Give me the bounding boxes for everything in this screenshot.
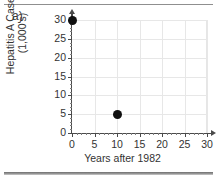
x-axis-minor-tick bbox=[99, 133, 100, 135]
x-axis-minor-tick bbox=[176, 133, 177, 135]
x-axis-minor-tick bbox=[126, 133, 127, 135]
y-axis-minor-tick bbox=[70, 118, 72, 119]
y-axis-tick bbox=[68, 95, 72, 96]
x-axis-tick-label: 15 bbox=[129, 138, 151, 150]
y-axis-minor-tick bbox=[70, 129, 72, 130]
y-axis-minor-tick bbox=[70, 54, 72, 55]
x-axis-minor-tick bbox=[131, 133, 132, 135]
gridline-horizontal bbox=[72, 39, 207, 40]
gridline-horizontal bbox=[72, 114, 207, 115]
data-point bbox=[113, 110, 122, 119]
x-axis-minor-tick bbox=[194, 133, 195, 135]
y-axis-tick-label: 30 bbox=[42, 14, 66, 25]
y-axis-title-line2: (1,000's) bbox=[17, 13, 29, 54]
y-axis-minor-tick bbox=[70, 69, 72, 70]
y-axis-minor-tick bbox=[70, 46, 72, 47]
y-axis-minor-tick bbox=[70, 110, 72, 111]
y-axis-minor-tick bbox=[70, 73, 72, 74]
top-divider bbox=[4, 4, 213, 5]
x-axis-tick-label: 30 bbox=[196, 138, 217, 150]
x-axis-minor-tick bbox=[189, 133, 190, 135]
y-axis-minor-tick bbox=[70, 31, 72, 32]
x-axis-minor-tick bbox=[113, 133, 114, 135]
x-axis-minor-tick bbox=[171, 133, 172, 135]
y-axis-minor-tick bbox=[70, 28, 72, 29]
y-axis-tick bbox=[68, 39, 72, 40]
x-axis-tick-label: 5 bbox=[84, 138, 106, 150]
y-axis-minor-tick bbox=[70, 80, 72, 81]
bottom-divider bbox=[4, 172, 213, 175]
x-axis-minor-tick bbox=[144, 133, 145, 135]
x-axis-tick-label: 20 bbox=[151, 138, 173, 150]
y-axis-minor-tick bbox=[70, 88, 72, 89]
x-axis-tick-label: 0 bbox=[61, 138, 83, 150]
x-axis-tick bbox=[117, 133, 118, 137]
gridline-vertical bbox=[207, 20, 208, 133]
y-axis-minor-tick bbox=[70, 122, 72, 123]
x-axis-minor-tick bbox=[108, 133, 109, 135]
y-axis-tick-label: 25 bbox=[42, 33, 66, 44]
y-axis-minor-tick bbox=[70, 65, 72, 66]
gridline-horizontal bbox=[72, 77, 207, 78]
x-axis-tick bbox=[162, 133, 163, 137]
x-axis-minor-tick bbox=[167, 133, 168, 135]
y-axis-minor-tick bbox=[70, 103, 72, 104]
x-axis-tick bbox=[140, 133, 141, 137]
x-axis-tick bbox=[95, 133, 96, 137]
x-axis-tick-label: 25 bbox=[174, 138, 196, 150]
x-axis-minor-tick bbox=[86, 133, 87, 135]
y-axis-tick bbox=[68, 77, 72, 78]
x-axis-tick bbox=[185, 133, 186, 137]
y-axis-minor-tick bbox=[70, 61, 72, 62]
x-axis-minor-tick bbox=[203, 133, 204, 135]
y-axis-tick-label: 0 bbox=[42, 127, 66, 138]
x-axis-minor-tick bbox=[77, 133, 78, 135]
y-axis-tick-label: 10 bbox=[42, 89, 66, 100]
y-axis-tick bbox=[68, 58, 72, 59]
gridline-horizontal bbox=[72, 95, 207, 96]
y-axis-minor-tick bbox=[70, 125, 72, 126]
y-axis-minor-tick bbox=[70, 84, 72, 85]
x-axis-minor-tick bbox=[158, 133, 159, 135]
gridline-horizontal bbox=[72, 58, 207, 59]
y-axis-minor-tick bbox=[70, 43, 72, 44]
x-axis-minor-tick bbox=[90, 133, 91, 135]
x-axis-minor-tick bbox=[149, 133, 150, 135]
y-axis-tick bbox=[68, 133, 72, 134]
y-axis-minor-tick bbox=[70, 35, 72, 36]
y-axis-minor-tick bbox=[70, 107, 72, 108]
x-axis-minor-tick bbox=[122, 133, 123, 135]
y-axis-tick bbox=[68, 114, 72, 115]
y-axis-tick-label: 20 bbox=[42, 52, 66, 63]
gridline-horizontal bbox=[72, 20, 207, 21]
x-axis-title: Years after 1982 bbox=[0, 152, 217, 164]
x-axis-tick bbox=[207, 133, 208, 137]
x-axis-tick bbox=[72, 133, 73, 137]
x-axis-minor-tick bbox=[180, 133, 181, 135]
y-axis-title: Hepatitis A Cases (1,000's) bbox=[2, 0, 32, 91]
y-axis-minor-tick bbox=[70, 50, 72, 51]
x-axis-minor-tick bbox=[135, 133, 136, 135]
plot-area bbox=[72, 20, 207, 133]
x-axis-minor-tick bbox=[153, 133, 154, 135]
y-axis-minor-tick bbox=[70, 92, 72, 93]
x-axis-minor-tick bbox=[81, 133, 82, 135]
y-axis-tick-label: 5 bbox=[42, 108, 66, 119]
y-axis-tick-label: 15 bbox=[42, 71, 66, 82]
y-axis-minor-tick bbox=[70, 99, 72, 100]
x-axis-minor-tick bbox=[104, 133, 105, 135]
x-axis-minor-tick bbox=[198, 133, 199, 135]
x-axis-tick-label: 10 bbox=[106, 138, 128, 150]
data-point bbox=[68, 16, 77, 25]
